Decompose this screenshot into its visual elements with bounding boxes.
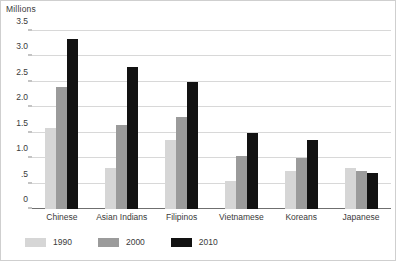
chart-legend: 199020002010 — [25, 237, 218, 247]
legend-swatch-2000 — [98, 238, 119, 247]
x-axis-label-japanese: Japanese — [332, 212, 390, 222]
x-axis-category-labels: ChineseAsian IndiansFilipinosVietnameseK… — [32, 212, 391, 222]
y-axis: 0.51.01.52.02.53.03.5 — [1, 31, 32, 209]
x-axis-label-koreans: Koreans — [272, 212, 330, 222]
bar-group — [165, 31, 198, 209]
bar-koreans-1990 — [285, 171, 296, 209]
y-axis-tick-label: 2.0 — [16, 92, 28, 102]
y-axis-tick-label: 1.0 — [16, 143, 28, 153]
bar-japanese-2000 — [356, 171, 367, 209]
legend-swatch-1990 — [25, 238, 46, 247]
bar-chinese-2010 — [67, 39, 78, 209]
bar-chinese-1990 — [45, 128, 56, 209]
bar-vietnamese-2010 — [247, 133, 258, 209]
y-axis-tick-label: .5 — [21, 169, 28, 179]
legend-label-2010: 2010 — [199, 237, 218, 247]
x-axis-label-chinese: Chinese — [33, 212, 91, 222]
legend-item-2000: 2000 — [98, 237, 145, 247]
bar-vietnamese-1990 — [225, 181, 236, 209]
x-axis-label-filipinos: Filipinos — [153, 212, 211, 222]
bar-vietnamese-2000 — [236, 156, 247, 209]
legend-swatch-2010 — [171, 238, 192, 247]
bar-group — [345, 31, 378, 209]
x-axis-label-vietnamese: Vietnamese — [212, 212, 270, 222]
bar-filipinos-1990 — [165, 140, 176, 209]
bar-group — [285, 31, 318, 209]
bar-group — [225, 31, 258, 209]
legend-label-2000: 2000 — [126, 237, 145, 247]
bar-japanese-2010 — [367, 173, 378, 209]
bar-asian-indians-1990 — [105, 168, 116, 209]
y-axis-tick-label: 1.5 — [16, 118, 28, 128]
bar-asian-indians-2010 — [127, 67, 138, 209]
y-axis-tick-label: 2.5 — [16, 67, 28, 77]
y-axis-tick-label: 3.5 — [16, 16, 28, 26]
y-axis-title: Millions — [6, 4, 36, 14]
x-axis-label-asian-indians: Asian Indians — [93, 212, 151, 222]
legend-item-2010: 2010 — [171, 237, 218, 247]
legend-item-1990: 1990 — [25, 237, 72, 247]
bar-chinese-2000 — [56, 87, 67, 209]
bar-asian-indians-2000 — [116, 125, 127, 209]
bar-filipinos-2010 — [187, 82, 198, 209]
bar-japanese-1990 — [345, 168, 356, 209]
bar-group — [45, 31, 78, 209]
legend-label-1990: 1990 — [53, 237, 72, 247]
bars-layer — [32, 31, 391, 209]
bar-koreans-2010 — [307, 140, 318, 209]
bar-filipinos-2000 — [176, 117, 187, 209]
bar-group — [105, 31, 138, 209]
y-axis-tick-label: 3.0 — [16, 41, 28, 51]
y-axis-tick-label: 0 — [23, 194, 28, 204]
bar-chart-figure: Millions 0.51.01.52.02.53.03.5 ChineseAs… — [0, 0, 396, 261]
bar-koreans-2000 — [296, 158, 307, 209]
